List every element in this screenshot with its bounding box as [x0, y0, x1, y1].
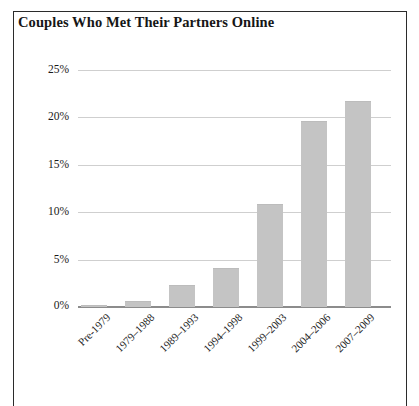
bar-1989-1993[interactable]: [169, 285, 195, 307]
bar-1999-2003[interactable]: [257, 204, 283, 307]
gridline-25: 25%: [78, 70, 391, 71]
bar-2004-2006[interactable]: [301, 121, 327, 307]
ytick-label-10: 10%: [48, 206, 69, 218]
ytick-label-5: 5%: [54, 254, 69, 266]
chart-title: Couples Who Met Their Partners Online: [18, 14, 274, 31]
caption-cutoff-text: [60, 381, 390, 387]
bar-pre-1979[interactable]: [81, 305, 107, 307]
ytick-label-25: 25%: [48, 64, 69, 76]
ytick-label-20: 20%: [48, 112, 69, 124]
ytick-label-0: 0%: [54, 300, 69, 312]
ytick-label-15: 15%: [48, 159, 69, 171]
bar-1994-1998[interactable]: [213, 268, 239, 307]
bar-chart-plot-area: 25% 20% 15% 10% 5% 0%: [78, 70, 391, 307]
bar-1979-1988[interactable]: [125, 301, 151, 307]
bar-2007-2009[interactable]: [345, 101, 371, 307]
